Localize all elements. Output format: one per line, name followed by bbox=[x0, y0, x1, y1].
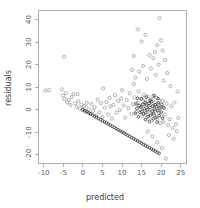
scatter-point bbox=[144, 33, 147, 36]
scatter-point bbox=[63, 55, 66, 58]
scatter-point bbox=[115, 111, 118, 114]
scatter-point bbox=[164, 157, 167, 160]
x-tick-label: 25 bbox=[176, 169, 185, 177]
plot-box-border bbox=[38, 11, 187, 164]
scatter-point bbox=[134, 76, 137, 79]
scatter-point bbox=[152, 57, 155, 60]
scatter-point bbox=[149, 114, 152, 117]
scatter-point bbox=[125, 98, 128, 101]
scatter-point bbox=[131, 103, 134, 106]
scatter-point bbox=[169, 85, 172, 88]
scatter-point bbox=[142, 64, 145, 67]
scatter-point bbox=[158, 114, 161, 117]
scatter-point bbox=[72, 92, 75, 95]
scatter-point bbox=[102, 87, 105, 90]
scatter-point bbox=[44, 89, 47, 92]
scatter-point bbox=[162, 79, 165, 82]
scatter-point bbox=[157, 102, 160, 105]
scatter-point bbox=[77, 100, 80, 103]
scatter-point bbox=[137, 90, 140, 93]
scatter-point bbox=[154, 73, 157, 76]
scatter-point bbox=[165, 102, 168, 105]
scatter-point bbox=[69, 103, 72, 106]
scatter-point bbox=[159, 121, 162, 124]
scatter-point bbox=[85, 101, 88, 104]
y-tick-label: -20 bbox=[25, 149, 33, 160]
x-axis: -10-50510152025 bbox=[38, 164, 185, 178]
y-axis-title: residuals bbox=[4, 70, 13, 106]
x-tick-label: 15 bbox=[137, 169, 146, 177]
scatter-point bbox=[152, 117, 155, 120]
scatter-point bbox=[74, 102, 77, 105]
y-tick-label: 30 bbox=[25, 38, 33, 47]
scatter-point bbox=[161, 99, 164, 102]
scatter-point bbox=[167, 124, 170, 127]
scatter-point bbox=[105, 100, 108, 103]
scatter-point bbox=[124, 116, 127, 119]
y-tick-label: 0 bbox=[25, 107, 33, 111]
scatter-point bbox=[118, 108, 121, 111]
scatter-point bbox=[61, 94, 64, 97]
y-tick-label: 40 bbox=[25, 15, 33, 24]
scatter-point bbox=[131, 68, 134, 71]
scatter-point bbox=[63, 98, 66, 101]
x-tick-label: 0 bbox=[81, 169, 85, 177]
scatter-point bbox=[140, 98, 143, 101]
scatter-point bbox=[132, 54, 135, 57]
scatter-point bbox=[120, 97, 123, 100]
scatter-point bbox=[167, 134, 170, 137]
scatter-point bbox=[136, 28, 139, 31]
scatter-point bbox=[173, 101, 176, 104]
scatter-point bbox=[143, 107, 146, 110]
scatter-point bbox=[96, 98, 99, 101]
scatter-point bbox=[166, 71, 169, 74]
scatter-point bbox=[90, 103, 93, 106]
scatter-point bbox=[70, 95, 73, 98]
scatter-point bbox=[92, 109, 95, 112]
scatter-point bbox=[122, 104, 125, 107]
scatter-point bbox=[163, 58, 166, 61]
scatter-point bbox=[120, 89, 123, 92]
scatter-point bbox=[137, 116, 140, 119]
scatter-point bbox=[171, 126, 174, 129]
y-axis: -20-10010203040 bbox=[25, 15, 38, 160]
scatter-point bbox=[176, 90, 179, 93]
x-tick-label: -5 bbox=[60, 169, 67, 177]
scatter-point bbox=[130, 112, 133, 115]
scatter-point bbox=[177, 116, 180, 119]
residual-plot-figure: -10-50510152025 -20-10010203040 predicte… bbox=[0, 0, 200, 208]
x-tick-label: 10 bbox=[118, 169, 127, 177]
scatter-point bbox=[136, 107, 139, 110]
scatter-point bbox=[64, 91, 67, 94]
scatter-point bbox=[83, 104, 86, 107]
scatter-point bbox=[161, 49, 164, 52]
scatter-point bbox=[161, 103, 164, 106]
scatter-point bbox=[160, 147, 163, 150]
scatter-point bbox=[175, 130, 178, 133]
scatter-plot-canvas: -10-50510152025 -20-10010203040 predicte… bbox=[0, 0, 200, 208]
scatter-point bbox=[158, 17, 161, 20]
scatter-point bbox=[138, 70, 141, 73]
scatter-point bbox=[168, 118, 171, 121]
scatter-point bbox=[128, 92, 131, 95]
scatter-point bbox=[117, 99, 120, 102]
scatter-point bbox=[101, 115, 104, 118]
scatter-point bbox=[133, 96, 136, 99]
scatter-point bbox=[156, 141, 159, 144]
scatter-point bbox=[108, 96, 111, 99]
scatter-point bbox=[98, 111, 101, 114]
x-tick-label: -10 bbox=[38, 169, 49, 177]
scatter-point bbox=[142, 93, 145, 96]
y-tick-label: 10 bbox=[25, 83, 33, 92]
x-tick-label: 5 bbox=[100, 169, 104, 177]
scatter-point bbox=[140, 40, 143, 43]
scatter-point bbox=[67, 98, 70, 101]
scatter-point bbox=[78, 107, 81, 110]
scatter-point bbox=[76, 93, 79, 96]
x-axis-title: predicted bbox=[86, 193, 124, 202]
scatter-point bbox=[172, 137, 175, 140]
scatter-point bbox=[132, 82, 135, 85]
scatter-point bbox=[112, 103, 115, 106]
scatter-point bbox=[93, 106, 96, 109]
scatter-point bbox=[99, 102, 102, 105]
